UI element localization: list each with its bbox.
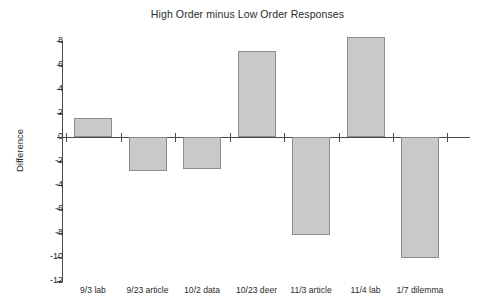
y-tick-label: 4 [35, 84, 63, 93]
x-tick-label: 9/23 article [126, 285, 168, 295]
y-tick-label: 8 [35, 36, 63, 45]
plot-area: 86420-2-4-6-8-10-12 9/3 lab9/23 article1… [0, 0, 495, 303]
bar [238, 51, 276, 137]
y-tick-label: 2 [35, 108, 63, 117]
y-tick-label-wrap: -8 [20, 233, 63, 234]
y-tick-label: -8 [35, 228, 63, 237]
y-tick-label-wrap: 6 [20, 65, 63, 66]
y-tick-label-wrap: 8 [20, 41, 63, 42]
x-axis-tick [175, 133, 176, 142]
bar [401, 137, 439, 258]
bar [183, 137, 221, 169]
bar [129, 137, 167, 171]
x-tick-label: 11/4 lab [351, 285, 381, 295]
y-tick-label: -10 [35, 252, 63, 261]
y-tick-label-wrap: -4 [20, 185, 63, 186]
y-tick-label-wrap: -12 [20, 281, 63, 282]
x-tick-label: 10/2 data [184, 285, 220, 295]
x-tick-label: 1/7 dilemma [397, 285, 444, 295]
bar-chart: High Order minus Low Order Responses Dif… [0, 0, 495, 303]
x-axis-tick [121, 133, 122, 142]
y-tick-label-wrap: 0 [20, 137, 63, 138]
y-tick-label: -4 [35, 180, 63, 189]
y-tick-label: -2 [35, 156, 63, 165]
y-tick-label-wrap: 4 [20, 89, 63, 90]
x-axis-tick [284, 133, 285, 142]
y-tick-label-wrap: 2 [20, 113, 63, 114]
y-tick-label: -12 [35, 276, 63, 285]
x-tick-label: 9/3 lab [80, 285, 106, 295]
x-tick-label: 11/3 article [290, 285, 331, 295]
y-tick-label: -6 [35, 204, 63, 213]
y-tick-label: 6 [35, 60, 63, 69]
bar [347, 37, 385, 137]
y-tick-label: 0 [35, 132, 63, 141]
x-tick-label: 10/23 deer [236, 285, 277, 295]
x-axis-tick [230, 133, 231, 142]
y-tick-label-wrap: -10 [20, 257, 63, 258]
bar [74, 118, 112, 137]
bar [292, 137, 330, 235]
y-tick-label-wrap: -6 [20, 209, 63, 210]
x-axis-tick [339, 133, 340, 142]
x-axis-tick [66, 133, 67, 142]
x-axis-tick [447, 133, 448, 142]
y-tick-label-wrap: -2 [20, 161, 63, 162]
x-axis-tick [393, 133, 394, 142]
